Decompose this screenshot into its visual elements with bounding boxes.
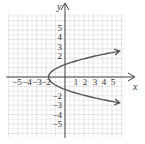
x-axis-label: x <box>132 81 138 92</box>
graph: y x −5 −4 −3 −2 1 2 3 4 5 5 4 3 2 −2 −3 … <box>0 0 145 144</box>
x-tick: −4 <box>22 77 32 87</box>
x-tick: −2 <box>41 77 51 87</box>
y-axis-label: y <box>56 1 62 12</box>
y-tick: 2 <box>58 51 63 61</box>
y-tick: 4 <box>58 32 63 42</box>
x-tick: 3 <box>93 77 98 87</box>
y-tick: −3 <box>52 100 62 110</box>
x-tick: 2 <box>83 77 88 87</box>
x-tick: −5 <box>12 77 22 87</box>
x-tick: 1 <box>74 77 79 87</box>
y-tick: −5 <box>52 119 62 129</box>
grid <box>8 14 124 137</box>
y-axis <box>61 3 69 138</box>
x-tick: 4 <box>102 77 107 87</box>
x-tick: 5 <box>111 77 116 87</box>
